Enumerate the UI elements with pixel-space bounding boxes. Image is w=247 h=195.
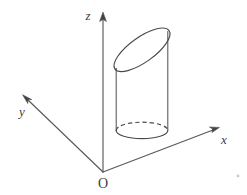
x-axis-label: x xyxy=(220,132,227,147)
z-axis-group: z xyxy=(84,8,106,172)
cylinder-group xyxy=(108,20,176,138)
z-axis-label: z xyxy=(84,8,90,23)
coordinate-cylinder-diagram: z y x O xyxy=(0,0,247,195)
y-axis-group: y xyxy=(17,95,103,172)
figure-canvas: z y x O xyxy=(0,0,247,195)
y-axis-label: y xyxy=(17,104,25,119)
y-axis-line xyxy=(29,101,104,173)
scan-speck xyxy=(237,175,240,178)
cylinder-bottom-hidden-arc xyxy=(116,122,168,130)
origin-label: O xyxy=(98,176,108,191)
cylinder-bottom-front-arc xyxy=(116,130,168,138)
x-axis-arrowhead xyxy=(209,127,219,133)
cylinder-top-ellipse xyxy=(108,20,176,79)
